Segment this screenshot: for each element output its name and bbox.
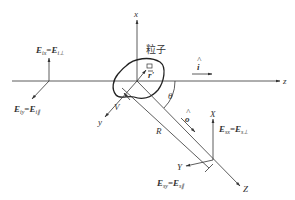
x-axis-label: x (133, 9, 138, 19)
X-axis-label: X (209, 109, 216, 119)
svg-text:Eiy=Ei∥: Eiy=Ei∥ (13, 104, 41, 116)
position-vector-label: r' (148, 70, 155, 80)
distance-line (122, 88, 209, 168)
particle-shape (113, 59, 164, 99)
Z-axis-label: Z (243, 184, 249, 194)
scattered-ey-label: Esy=Es∥ (156, 178, 185, 190)
scattered-direction-hat: ^ (186, 107, 191, 117)
incident-ey-arrow (32, 81, 49, 99)
Y-axis-line (186, 160, 213, 166)
svg-text:Eix=Ei⊥: Eix=Ei⊥ (35, 45, 64, 56)
position-vector-arrow (137, 70, 146, 81)
svg-text:Esy=Es∥: Esy=Es∥ (156, 178, 185, 190)
scattered-ex-label: Esx=Es⊥ (218, 124, 248, 135)
particle-label: 粒子 (146, 43, 166, 55)
volume-label: V (114, 102, 121, 112)
incident-direction-hat: ^ (197, 55, 202, 65)
volume-element-icon (147, 64, 152, 68)
z-axis-label: z (282, 76, 287, 86)
svg-text:Esx=Es⊥: Esx=Es⊥ (218, 124, 248, 135)
incident-ex-label: Eix=Ei⊥ (35, 45, 64, 56)
y-axis-line (105, 81, 137, 117)
y-axis-label: y (97, 117, 102, 127)
distance-label: R (155, 126, 162, 136)
Y-axis-label: Y (177, 162, 183, 172)
scattering-diagram: z Eix=Ei⊥ Eiy=Ei∥ x y 粒子 r' V i ^ θ R o … (0, 0, 295, 200)
incident-ey-label: Eiy=Ei∥ (13, 104, 41, 116)
theta-label: θ (168, 91, 173, 101)
